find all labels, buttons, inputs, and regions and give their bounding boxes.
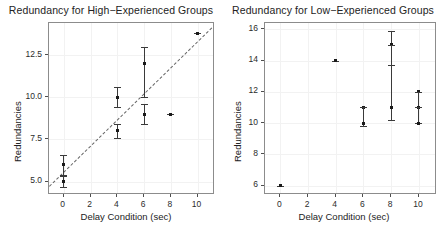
data-point [417,122,420,125]
x-tick-label: 10 [408,199,428,209]
x-tick-label: 8 [160,199,180,209]
x-tick-mark [390,194,391,197]
y-tick-mark [261,91,264,92]
figure-root: Redundancy for High−Experienced Groups R… [0,0,444,246]
data-point [143,113,146,116]
panel-title: Redundancy for High−Experienced Groups [0,4,222,16]
gridline-horizontal [265,123,435,124]
data-point [390,106,393,109]
error-bar-cap [388,45,395,46]
error-bar-cap [141,97,148,98]
y-tick-label: 12.5 [25,49,42,59]
gridline-horizontal [265,92,435,93]
x-tick-mark [90,194,91,197]
data-point [62,163,65,166]
gridline-horizontal [265,29,435,30]
y-tick-mark [261,60,264,61]
x-tick-mark [279,194,280,197]
y-tick-label: 10.0 [25,91,42,101]
error-bar-cap [60,155,67,156]
gridline-horizontal [265,154,435,155]
x-tick-mark [335,194,336,197]
y-axis-title: Redundancies [12,101,23,162]
data-point [169,113,172,116]
plot-area [48,22,214,194]
panel-low-experienced: Redundancy for Low−Experienced Groups Re… [222,0,444,246]
gridline-vertical [336,23,337,193]
data-point [279,184,282,187]
gridline-vertical [171,23,172,193]
error-bar-cap [360,107,367,108]
y-tick-label: 16 [249,23,258,33]
x-tick-label: 6 [133,199,153,209]
x-axis-title: Delay Condition (sec) [0,211,222,222]
panel-high-experienced: Redundancy for High−Experienced Groups R… [0,0,222,246]
y-tick-label: 12 [249,85,258,95]
x-tick-label: 0 [53,199,73,209]
x-tick-label: 0 [269,199,289,209]
error-bar-cap [141,124,148,125]
data-point [116,129,119,132]
y-tick-label: 6 [253,179,258,189]
x-tick-label: 2 [297,199,317,209]
error-bar-cap [60,176,67,177]
plot-area [264,22,436,194]
gridline-horizontal [49,55,213,56]
x-tick-label: 2 [80,199,100,209]
error-bar-cap [114,138,121,139]
error-bar-cap [114,87,121,88]
regression-fit-line [49,24,214,187]
gridline-horizontal [49,139,213,140]
gridline-vertical [308,23,309,193]
y-tick-mark [261,153,264,154]
y-tick-mark [261,185,264,186]
error-bar-cap [141,104,148,105]
x-tick-mark [307,194,308,197]
y-tick-label: 5.0 [30,175,42,185]
x-axis-title: Delay Condition (sec) [222,211,444,222]
error-bar-cap [114,107,121,108]
error-bar-cap [388,31,395,32]
gridline-horizontal [49,97,213,98]
x-tick-mark [63,194,64,197]
x-tick-mark [170,194,171,197]
data-point [62,180,65,183]
gridline-vertical [280,23,281,193]
error-bar-cap [360,126,367,127]
y-tick-mark [45,54,48,55]
y-tick-label: 8 [253,148,258,158]
y-tick-mark [45,181,48,182]
panel-title: Redundancy for Low−Experienced Groups [222,4,444,16]
error-bar-cap [60,187,67,188]
y-tick-label: 14 [249,54,258,64]
data-point [362,122,365,125]
gridline-horizontal [265,186,435,187]
x-tick-mark [418,194,419,197]
error-bar-cap [388,120,395,121]
error-bar-cap [141,47,148,48]
data-point [116,96,119,99]
error-bar-cap [415,92,422,93]
data-point [196,32,199,35]
y-tick-label: 7.5 [30,133,42,143]
y-tick-mark [45,96,48,97]
x-tick-label: 8 [380,199,400,209]
x-tick-label: 4 [106,199,126,209]
x-tick-label: 10 [187,199,207,209]
y-tick-label: 10 [249,117,258,127]
x-tick-mark [143,194,144,197]
y-tick-mark [261,28,264,29]
data-point [143,62,146,65]
error-bar [144,47,145,98]
error-bar-cap [114,124,121,125]
x-tick-label: 6 [352,199,372,209]
x-tick-mark [362,194,363,197]
x-tick-mark [197,194,198,197]
data-point [334,59,337,62]
error-bar-cap [415,107,422,108]
x-tick-label: 4 [325,199,345,209]
y-tick-mark [45,138,48,139]
y-axis-title: Redundancies [232,101,243,162]
y-tick-mark [261,122,264,123]
gridline-horizontal [49,182,213,183]
